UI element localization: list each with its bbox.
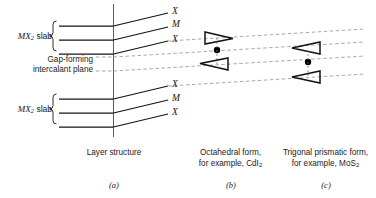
caption-panel-b-line2: for example, CdI2 xyxy=(181,159,280,170)
caption-panel-c-subscript: 2 xyxy=(356,162,359,168)
caption-panel-b-subscript: 2 xyxy=(259,162,262,168)
panel-letter-c: (c) xyxy=(296,180,356,190)
panel-letter-b: (b) xyxy=(201,180,261,190)
guide-plane-upper-x xyxy=(168,29,365,41)
gap-plane-lower xyxy=(96,56,365,71)
atom-label-upper-m: M xyxy=(172,19,180,30)
slab-lower-word: slab xyxy=(36,104,52,114)
caption-panel-a: Layer structure xyxy=(63,148,165,159)
caption-panel-b-line1: Octahedral form, xyxy=(181,148,280,159)
slab-upper-formula: MX xyxy=(18,31,31,41)
slab-lower-formula: MX xyxy=(18,104,31,114)
gap-plane-label-line2: intercalant plane xyxy=(0,65,93,75)
caption-panel-c: Trigonal prismatic form, for example, Mo… xyxy=(275,148,376,170)
slab-label-upper: MX2 slab xyxy=(6,31,52,42)
atom-label-lower-x-top: X xyxy=(172,79,178,90)
caption-panel-b-line2-text: for example, CdI xyxy=(199,159,259,168)
atom-label-upper-x-bottom: X xyxy=(172,34,178,45)
caption-panel-c-line1: Trigonal prismatic form, xyxy=(275,148,376,159)
caption-panel-c-line2: for example, MoS2 xyxy=(275,159,376,170)
caption-panel-c-line2-text: for example, MoS xyxy=(292,159,356,168)
gap-plane-upper xyxy=(96,42,365,57)
trigonal-prism-upper-triangle xyxy=(292,42,320,54)
guide-plane-lower-x xyxy=(168,74,365,86)
trigonal-prism-lower-triangle xyxy=(292,71,320,83)
atom-label-upper-x-top: X xyxy=(172,6,178,17)
gap-plane-label: Gap-forming intercalant plane xyxy=(0,55,93,76)
slab-upper-word: slab xyxy=(36,31,52,41)
gap-plane-label-line1: Gap-forming xyxy=(0,55,93,65)
caption-panel-b: Octahedral form, for example, CdI2 xyxy=(181,148,280,170)
caption-panel-a-line1: Layer structure xyxy=(63,148,165,159)
panel-letter-a: (a) xyxy=(84,180,144,190)
slab-label-lower: MX2 slab xyxy=(6,104,52,115)
atom-label-lower-m: M xyxy=(172,93,180,104)
figure-canvas: MX2 slab Gap-forming intercalant plane M… xyxy=(0,0,376,198)
atom-label-lower-x-bottom: X xyxy=(172,107,178,118)
